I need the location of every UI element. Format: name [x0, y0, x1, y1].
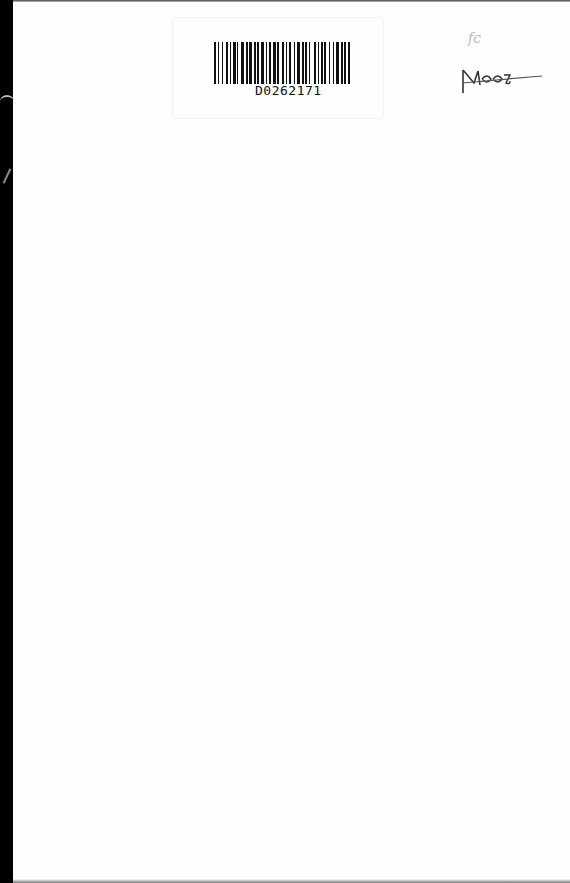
barcode-number: D0262171 [255, 83, 322, 98]
barcode-icon [214, 42, 350, 84]
handwritten-shelf-mark: M400 [460, 65, 545, 99]
handwritten-note: fc [468, 30, 481, 46]
edge-mark [0, 95, 14, 107]
handwritten-signature-icon [460, 65, 545, 95]
scanned-page [13, 2, 570, 880]
edge-slash-mark [3, 168, 12, 183]
bottom-scan-edge [13, 879, 570, 883]
